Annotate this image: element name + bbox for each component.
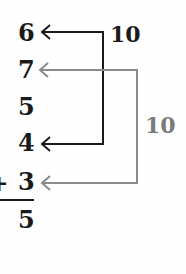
black-pair-arrow — [42, 25, 103, 151]
pair-label-black: 10 — [110, 22, 141, 46]
pair-label-gray: 10 — [145, 113, 176, 137]
gray-pair-arrow — [40, 63, 137, 190]
